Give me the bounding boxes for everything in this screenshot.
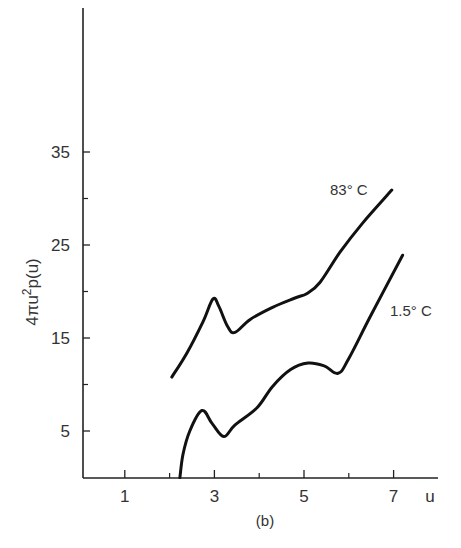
x-tick-label: 7	[389, 487, 398, 506]
x-tick-label: 5	[299, 487, 308, 506]
curve-1-5c	[180, 255, 403, 477]
y-tick-label: 35	[51, 143, 70, 162]
y-tick-label: 15	[51, 329, 70, 348]
y-tick-label: 25	[51, 236, 70, 255]
figure-caption: (b)	[256, 512, 274, 529]
y-tick-label: 5	[61, 422, 70, 441]
x-tick-label: 1	[120, 487, 129, 506]
curve-label-83c: 83° C	[330, 181, 368, 198]
curve-83c	[172, 190, 392, 377]
y-axis-label: 4πu2p(u)	[20, 258, 42, 326]
x-axis-label: u	[425, 487, 434, 506]
distribution-chart: 51525351357 u(b)4πu2p(u)83° C1.5° C	[0, 0, 461, 548]
x-tick-label: 3	[210, 487, 219, 506]
axes: 51525351357	[51, 8, 438, 506]
curves	[172, 190, 403, 477]
curve-label-1-5c: 1.5° C	[390, 302, 432, 319]
